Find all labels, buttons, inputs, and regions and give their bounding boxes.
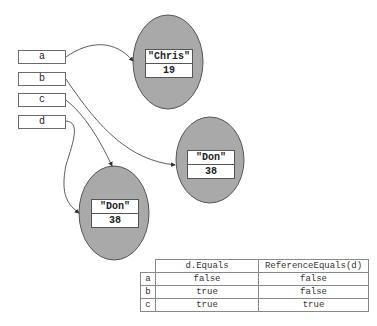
object-age: 19: [146, 63, 192, 77]
variable-a: a: [18, 50, 66, 64]
table-header-row: d.Equals ReferenceEquals(d): [141, 260, 369, 273]
reference-arrow-d: [64, 121, 79, 213]
object-name: "Don": [188, 151, 234, 164]
row-label: c: [141, 299, 156, 312]
object-age: 38: [92, 213, 138, 227]
table-row: a false false: [141, 273, 369, 286]
object-box-don-left: "Don" 38: [91, 199, 139, 228]
equality-table: d.Equals ReferenceEquals(d) a false fals…: [140, 259, 369, 312]
row-label: b: [141, 286, 156, 299]
table-corner: [141, 260, 156, 273]
object-name: "Chris": [146, 50, 192, 63]
cell-ref-equals: true: [259, 299, 369, 312]
cell-equals: true: [156, 299, 259, 312]
variable-d: d: [18, 115, 66, 129]
table-row: b true false: [141, 286, 369, 299]
table-row: c true true: [141, 299, 369, 312]
object-box-chris: "Chris" 19: [145, 49, 193, 78]
header-d-equals: d.Equals: [156, 260, 259, 273]
cell-equals: true: [156, 286, 259, 299]
object-box-don-right: "Don" 38: [187, 150, 235, 179]
object-age: 38: [188, 164, 234, 178]
header-reference-equals: ReferenceEquals(d): [259, 260, 369, 273]
cell-ref-equals: false: [259, 286, 369, 299]
reference-arrow-c: [66, 100, 112, 166]
variable-b: b: [18, 72, 66, 86]
variable-c: c: [18, 93, 66, 107]
cell-equals: false: [156, 273, 259, 286]
object-name: "Don": [92, 200, 138, 213]
reference-arrow-a: [66, 45, 133, 61]
row-label: a: [141, 273, 156, 286]
cell-ref-equals: false: [259, 273, 369, 286]
